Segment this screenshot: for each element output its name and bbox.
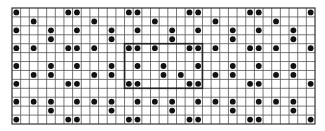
grid-dot [230,27,236,33]
grid-dot [273,72,279,78]
grid-dot [109,63,115,69]
grid-dot [290,36,296,42]
grid-dot [290,108,296,114]
grid-dot [256,10,262,16]
grid-dot [48,99,54,105]
grid-dot [74,81,80,87]
grid-dot [230,36,236,42]
grid-dot [308,81,314,87]
grid-dots [13,10,313,123]
grid-dot [152,45,158,51]
grid-dot [31,45,37,51]
grid-dot [31,99,37,105]
grid-dot [213,72,219,78]
grid-dot [308,10,314,16]
grid-dot [91,18,97,24]
grid-dot [13,45,19,51]
grid-dot [109,27,115,33]
grid-dot [65,117,71,123]
grid-dot [135,45,141,51]
grid-dot [256,27,262,33]
grid-dot [74,99,80,105]
grid-dot [213,18,219,24]
grid-dot [213,99,219,105]
grid-dot [13,81,19,87]
grid-dot [230,99,236,105]
grid-dot [195,117,201,123]
grid-dot [126,10,132,16]
grid-dot [48,72,54,78]
grid-dot [109,99,115,105]
grid-dot [126,45,132,51]
grid-dot [135,81,141,87]
grid-dot [230,63,236,69]
grid-dot [13,10,19,16]
grid-dot [74,117,80,123]
grid-dot [13,99,19,105]
grid-dot [273,18,279,24]
grid-dot [247,45,253,51]
grid-dot [31,18,37,24]
grid-dot [91,45,97,51]
grid-dot [256,81,262,87]
grid-dot [13,27,19,33]
grid-dot [187,45,193,51]
grid-dot [308,45,314,51]
grid-dot [169,99,175,105]
grid-dot [109,72,115,78]
grid-dot [290,72,296,78]
grid-dot [247,10,253,16]
grid-dot [290,63,296,69]
grid-dot [230,72,236,78]
grid-dot [135,99,141,105]
grid-dot [126,117,132,123]
grid-dot [152,18,158,24]
grid-dot [48,36,54,42]
grid-dot [247,81,253,87]
grid-dot [195,45,201,51]
grid-dot [169,36,175,42]
grid-dot [195,81,201,87]
grid-dot [169,27,175,33]
grid-dot [195,27,201,33]
grid-dot [91,99,97,105]
grid-dot [48,63,54,69]
grid-dot [187,81,193,87]
grid-dot [135,27,141,33]
grid-dot [169,108,175,114]
grid-dot [65,81,71,87]
grid-dot [308,117,314,123]
grid-dot [74,10,80,16]
grid-dot [187,117,193,123]
grid-dot [290,27,296,33]
grid-dot [135,117,141,123]
grid-dot [161,63,167,69]
grid-dot [91,72,97,78]
grid-dot [13,117,19,123]
grid-dot [126,81,132,87]
grid-dot [74,27,80,33]
grid-dot [273,99,279,105]
grid-dot [195,99,201,105]
grid-dot [247,117,253,123]
grid-dot [161,72,167,78]
grid-dot [213,45,219,51]
grid-dot [187,10,193,16]
dot-grid [12,8,315,124]
grid-dot [13,63,19,69]
grid-dot [290,99,296,105]
grid-dot [48,27,54,33]
grid-dot [230,108,236,114]
grid-dot [256,99,262,105]
grid-dot [152,99,158,105]
dot-grid-diagram [12,8,315,124]
grid-dot [256,117,262,123]
grid-dot [256,45,262,51]
grid-dot [74,63,80,69]
grid-dot [178,72,184,78]
grid-dot [109,36,115,42]
grid-dot [195,63,201,69]
grid-dot [74,45,80,51]
grid-dot [48,108,54,114]
grid-dot [135,10,141,16]
